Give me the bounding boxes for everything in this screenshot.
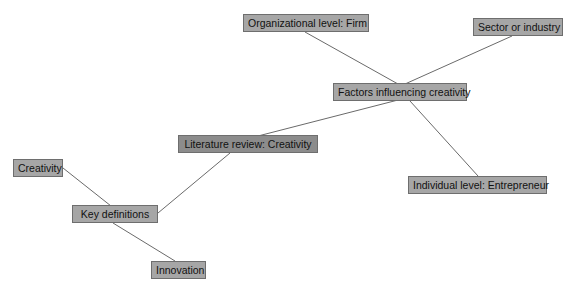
node-innovation[interactable]: Innovation — [151, 261, 206, 279]
node-factors-influencing-creativity[interactable]: Factors influencing creativity — [333, 83, 467, 101]
edge-factors-indiv — [410, 101, 478, 176]
edge-keydef-creativity — [63, 168, 111, 206]
node-key-definitions[interactable]: Key definitions — [72, 205, 158, 223]
node-organizational-level[interactable]: Organizational level: Firm — [243, 14, 369, 32]
edge-factors-org — [305, 32, 398, 84]
mind-map-canvas: Literature review: Creativity Factors in… — [0, 0, 569, 290]
edge-keydef-innovation — [113, 223, 175, 261]
node-sector-or-industry[interactable]: Sector or industry — [473, 18, 563, 36]
edge-lit-factors — [258, 100, 398, 136]
edge-lit-keydef — [158, 153, 230, 213]
edge-factors-sector — [405, 36, 512, 84]
node-literature-review[interactable]: Literature review: Creativity — [178, 135, 318, 153]
node-creativity[interactable]: Creativity — [13, 159, 63, 177]
node-individual-level[interactable]: Individual level: Entrepreneur — [408, 176, 547, 194]
